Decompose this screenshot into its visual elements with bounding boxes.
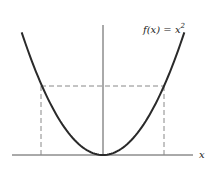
x-axis-label: x [199,149,205,160]
function-label: f(x) = x2 [142,22,186,35]
parabola-diagram: f(x) = x2 x [0,0,214,169]
